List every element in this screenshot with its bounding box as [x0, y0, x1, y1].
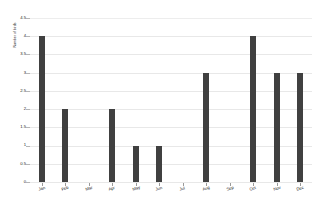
bar — [133, 146, 139, 182]
x-axis-tick-label: Dec — [296, 186, 304, 192]
gridline — [30, 73, 312, 74]
x-axis-tick-label: Jul — [179, 186, 185, 192]
bar — [274, 73, 280, 182]
gridline — [30, 146, 312, 147]
x-axis-tick-label: Jan — [38, 186, 46, 192]
bar — [62, 109, 68, 182]
x-axis-tick-label: Sep — [226, 186, 234, 192]
bar — [156, 146, 162, 182]
y-axis-tick-labels: 00.511.522.533.544.5 — [0, 0, 30, 212]
y-axis-tick-label: 2 — [2, 107, 26, 111]
bar — [297, 73, 303, 182]
y-axis-tick-label: 1 — [2, 143, 26, 147]
bar — [109, 109, 115, 182]
plot-area — [30, 18, 312, 182]
y-axis-tick-label: 1.5 — [2, 125, 26, 129]
x-axis-tick-label: Jun — [155, 186, 163, 192]
y-axis-tick-label: 0.5 — [2, 162, 26, 166]
y-axis-tick-label: 3.5 — [2, 52, 26, 56]
gridline — [30, 36, 312, 37]
x-axis-tick-label: Nov — [273, 186, 281, 192]
y-axis-tick-label: 4.5 — [2, 16, 26, 20]
gridline — [30, 18, 312, 19]
x-axis-tick-label: May — [132, 186, 141, 192]
y-axis-tick-label: 2.5 — [2, 89, 26, 93]
bar — [250, 36, 256, 182]
y-axis-tick-label: 0 — [2, 180, 26, 184]
gridline — [30, 182, 312, 183]
bar-chart: Number of birds 00.511.522.533.544.5 Jan… — [0, 0, 316, 212]
gridline — [30, 91, 312, 92]
bar — [39, 36, 45, 182]
gridline — [30, 127, 312, 128]
x-axis-tick-label: Apr — [108, 186, 116, 192]
gridline — [30, 164, 312, 165]
x-axis-tick-label: Oct — [249, 186, 256, 192]
bar — [203, 73, 209, 182]
y-axis-tick-label: 3 — [2, 71, 26, 75]
x-axis-tick-label: Aug — [202, 186, 210, 192]
gridline — [30, 109, 312, 110]
gridline — [30, 54, 312, 55]
x-axis-tick-label: Feb — [61, 186, 69, 192]
x-axis-tick-label: Mar — [85, 186, 93, 192]
y-axis-tick-label: 4 — [2, 34, 26, 38]
